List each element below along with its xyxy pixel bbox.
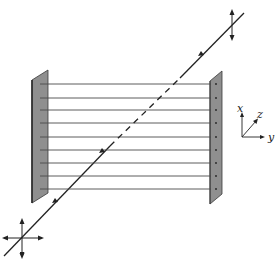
z-axis [242, 121, 256, 137]
beam-direction-arrows [52, 51, 204, 203]
wire-grid-polarizer-diagram: x y z [0, 0, 278, 269]
left-plate [32, 70, 48, 203]
x-axis-label: x [237, 102, 244, 115]
z-axis-label: z [256, 108, 263, 121]
beam-hidden-segment [110, 78, 180, 146]
transmitted-polarization-icon [230, 9, 235, 41]
wire-grid [40, 84, 211, 189]
coordinate-axes: x y z [237, 102, 275, 144]
beam-transmitted-segment [180, 13, 244, 78]
y-axis-label: y [267, 131, 275, 144]
